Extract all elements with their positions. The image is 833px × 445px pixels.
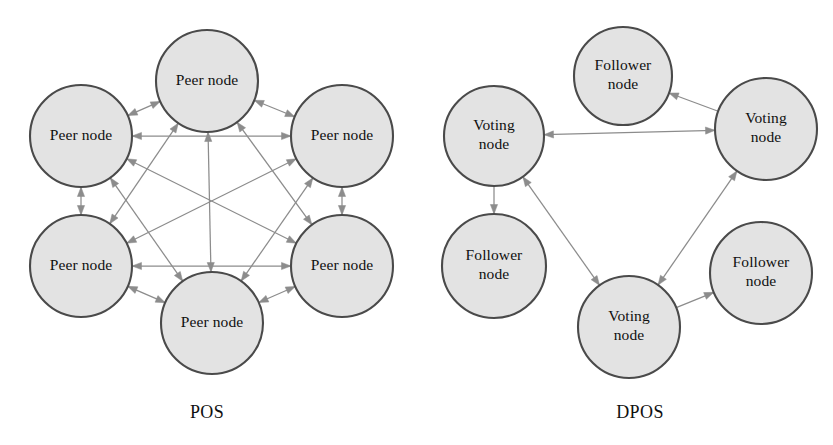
captions-layer: POSDPOS <box>190 402 664 422</box>
edge-line <box>544 130 715 134</box>
node-label: node <box>479 265 510 282</box>
arrowhead <box>77 187 84 197</box>
node-pos-n5[interactable]: Peer node <box>30 215 132 317</box>
arrowhead <box>285 110 295 117</box>
node-label: node <box>479 135 510 152</box>
arrowhead <box>282 262 292 269</box>
arrowhead <box>155 296 165 303</box>
node-label: Follower <box>595 56 653 73</box>
node-pos-n4[interactable]: Peer node <box>161 272 263 374</box>
arrowhead <box>132 132 142 139</box>
arrowhead <box>490 205 497 215</box>
arrowhead <box>338 206 345 216</box>
arrowhead <box>170 123 178 133</box>
diagram-canvas: Peer nodePeer nodePeer nodePeer nodePeer… <box>0 0 833 445</box>
node-label: Peer node <box>311 256 373 273</box>
node-pos-n6[interactable]: Peer node <box>30 85 132 187</box>
node-dpos-v-bottom[interactable]: Votingnode <box>578 276 680 378</box>
node-pos-n3[interactable]: Peer node <box>291 215 393 317</box>
node-label: Voting <box>473 116 515 133</box>
arrowhead <box>150 101 160 108</box>
edge-pos-n1-to-pos-n2 <box>254 100 295 117</box>
arrowhead <box>286 159 296 166</box>
arrowhead <box>729 171 737 181</box>
arrowhead <box>523 177 531 187</box>
arrowhead <box>110 214 118 224</box>
edge-pos-n1-to-pos-n6 <box>128 101 161 115</box>
arrowhead <box>132 262 142 269</box>
arrowhead <box>658 275 666 285</box>
node-label: Follower <box>733 253 791 270</box>
node-label: Voting <box>745 109 787 126</box>
node-label: Peer node <box>50 126 112 143</box>
node-dpos-f-left[interactable]: Followernode <box>442 214 546 318</box>
arrowhead <box>338 187 345 197</box>
edge-dpos-v-left-to-dpos-f-left <box>490 186 497 214</box>
node-dpos-f-right[interactable]: Followernode <box>710 222 812 324</box>
arrowhead <box>285 286 295 293</box>
arrowhead <box>305 178 313 188</box>
edge-pos-n4-to-pos-n5 <box>128 286 165 302</box>
node-pos-n2[interactable]: Peer node <box>291 85 393 187</box>
arrowhead <box>127 159 137 166</box>
arrowhead <box>705 127 715 134</box>
edge-dpos-v-right-to-dpos-f-top <box>669 93 718 111</box>
arrowhead <box>128 286 138 293</box>
node-label: Voting <box>608 307 650 324</box>
edge-dpos-v-left-to-dpos-v-right <box>544 127 715 138</box>
nodes-layer: Peer nodePeer nodePeer nodePeer nodePeer… <box>30 27 817 378</box>
arrowhead <box>205 132 212 142</box>
node-dpos-f-top[interactable]: Followernode <box>574 27 672 125</box>
edge-pos-n2-to-pos-n6 <box>132 132 291 139</box>
edge-dpos-v-bottom-to-dpos-f-right <box>676 292 714 307</box>
edge-pos-n2-to-pos-n3 <box>338 187 345 215</box>
arrowhead <box>128 109 138 116</box>
arrowhead <box>669 93 679 100</box>
arrowhead <box>110 178 118 188</box>
arrowhead <box>286 236 296 243</box>
arrowhead <box>127 236 137 243</box>
node-dpos-v-left[interactable]: Votingnode <box>444 86 544 186</box>
arrowhead <box>237 122 246 132</box>
arrowhead <box>241 271 249 281</box>
node-label: node <box>608 75 639 92</box>
edge-pos-n3-to-pos-n4 <box>259 286 296 302</box>
node-label: Peer node <box>311 126 373 143</box>
arrowhead <box>282 132 292 139</box>
arrowhead <box>591 276 599 286</box>
node-label: node <box>751 128 782 145</box>
arrowhead <box>704 292 714 299</box>
node-pos-n1[interactable]: Peer node <box>156 30 258 132</box>
panel-caption-pos: POS <box>190 402 224 422</box>
edge-pos-n5-to-pos-n6 <box>77 187 84 215</box>
node-label: node <box>746 272 777 289</box>
node-label: Peer node <box>50 256 112 273</box>
edges-layer <box>77 93 737 308</box>
node-label: node <box>614 326 645 343</box>
node-label: Follower <box>466 246 524 263</box>
node-label: Peer node <box>181 313 243 330</box>
arrowhead <box>303 215 312 225</box>
arrowhead <box>254 100 264 107</box>
node-label: Peer node <box>176 71 238 88</box>
node-dpos-v-right[interactable]: Votingnode <box>715 78 817 180</box>
arrowhead <box>207 262 214 272</box>
arrowhead <box>259 295 269 302</box>
consensus-diagram-figure: Peer nodePeer nodePeer nodePeer nodePeer… <box>0 0 833 445</box>
panel-caption-dpos: DPOS <box>616 402 664 422</box>
arrowhead <box>544 131 554 138</box>
arrowhead <box>174 271 182 281</box>
arrowhead <box>77 206 84 216</box>
